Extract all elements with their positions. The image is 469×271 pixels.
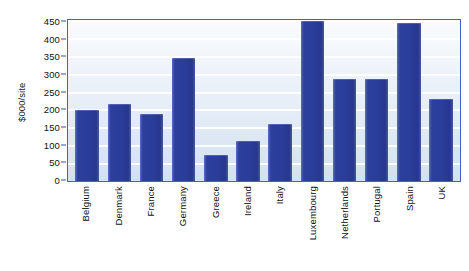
bar-slot <box>264 20 296 181</box>
bar <box>365 79 388 181</box>
x-tick-label: Netherlands <box>340 186 350 239</box>
bar <box>140 114 163 181</box>
y-tick-label: 450 <box>44 16 60 27</box>
bar-slot <box>200 20 232 181</box>
y-tick-mark <box>61 162 66 163</box>
x-axis-labels: BelgiumDenmarkFranceGermanyGreeceIreland… <box>68 186 460 268</box>
y-tick-mark <box>61 91 66 92</box>
bar <box>429 99 452 181</box>
bar <box>268 124 291 181</box>
bar-series <box>69 20 459 181</box>
x-tick-label: Germany <box>178 186 188 226</box>
x-label-slot: Denmark <box>102 186 134 268</box>
y-tick-label: 300 <box>44 69 60 80</box>
bar <box>172 58 195 181</box>
x-label-slot: Belgium <box>70 186 102 268</box>
x-label-slot: Luxembourg <box>296 186 328 268</box>
plot-area <box>67 19 461 182</box>
bar <box>333 79 356 181</box>
bar-slot <box>71 20 103 181</box>
y-tick-label: 400 <box>44 33 60 44</box>
y-tick-mark <box>61 38 66 39</box>
bar <box>75 110 98 181</box>
y-tick-mark <box>61 21 66 22</box>
x-label-slot: Ireland <box>232 186 264 268</box>
bar-slot <box>425 20 457 181</box>
x-label-slot: UK <box>426 186 458 268</box>
y-tick-mark <box>61 180 66 181</box>
y-tick-mark <box>61 109 66 110</box>
bar <box>204 155 227 181</box>
x-tick-label: UK <box>437 186 447 200</box>
y-tick-mark <box>61 144 66 145</box>
x-label-slot: Germany <box>167 186 199 268</box>
y-tick-label: 250 <box>44 86 60 97</box>
x-tick-label: Portugal <box>372 186 382 223</box>
x-tick-label: Greece <box>211 186 221 218</box>
y-tick-mark <box>61 74 66 75</box>
y-axis-title: $000/site <box>14 62 28 142</box>
y-axis-ticks: 450400350300250200150100500 <box>30 21 66 180</box>
x-label-slot: France <box>135 186 167 268</box>
x-tick-label: Denmark <box>114 186 124 226</box>
y-tick-mark <box>61 127 66 128</box>
y-tick-label: 100 <box>44 139 60 150</box>
bar-slot <box>135 20 167 181</box>
x-tick-label: Belgium <box>81 186 91 221</box>
bar <box>236 141 259 181</box>
y-tick-label: 200 <box>44 104 60 115</box>
bar-slot <box>328 20 360 181</box>
bar <box>397 23 420 181</box>
x-label-slot: Portugal <box>361 186 393 268</box>
bar-slot <box>361 20 393 181</box>
bar <box>108 104 131 181</box>
chart-title-cropped <box>0 0 469 3</box>
y-tick-label: 350 <box>44 51 60 62</box>
x-tick-label: France <box>146 186 156 216</box>
x-tick-label: Ireland <box>243 186 253 216</box>
x-label-slot: Italy <box>264 186 296 268</box>
y-tick-label: 50 <box>49 157 60 168</box>
bar-slot <box>393 20 425 181</box>
bar-slot <box>232 20 264 181</box>
y-tick-mark <box>61 56 66 57</box>
x-tick-label: Luxembourg <box>308 186 318 240</box>
bar-slot <box>168 20 200 181</box>
bar-slot <box>296 20 328 181</box>
x-tick-label: Spain <box>405 186 415 211</box>
bar-slot <box>103 20 135 181</box>
bar-chart: $000/site 450400350300250200150100500 Be… <box>0 0 469 271</box>
y-tick-label: 0 <box>55 175 60 186</box>
bar <box>301 21 324 181</box>
x-label-slot: Spain <box>393 186 425 268</box>
x-label-slot: Greece <box>199 186 231 268</box>
y-tick-label: 150 <box>44 122 60 133</box>
x-tick-label: Italy <box>275 186 285 204</box>
x-label-slot: Netherlands <box>329 186 361 268</box>
